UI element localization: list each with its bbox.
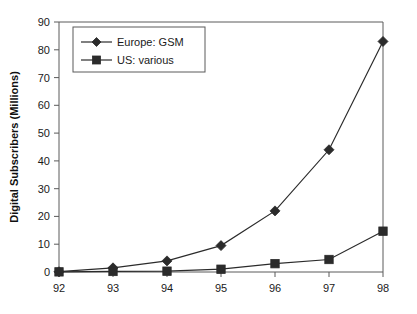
x-tick-label-93: 93	[107, 282, 119, 294]
x-tick-label-92: 92	[53, 282, 65, 294]
square-marker-icon	[55, 268, 63, 276]
y-tick-label-30: 30	[38, 183, 50, 195]
legend-item-us-various[interactable]: US: various	[81, 54, 174, 66]
legend-item-europe-gsm[interactable]: Europe: GSM	[81, 36, 184, 48]
square-marker-icon	[325, 255, 333, 263]
chart-container: 90 80 70 60 50 40 30 20 10 0 Digital Sub…	[0, 0, 417, 314]
square-marker-icon	[163, 267, 171, 275]
x-tick-label-98: 98	[377, 282, 389, 294]
square-marker-icon	[93, 56, 101, 64]
x-tick-label-96: 96	[269, 282, 281, 294]
diamond-marker-icon	[378, 36, 388, 46]
y-tick-label-20: 20	[38, 210, 50, 222]
x-tick-label-95: 95	[215, 282, 227, 294]
y-axis-title: Digital Subscribers (Millions)	[8, 71, 20, 223]
y-tick-label-0: 0	[44, 266, 50, 278]
x-axis: 92 93 94 95 96 97 98	[53, 272, 389, 294]
y-tick-group	[54, 22, 59, 272]
legend-label-us: US: various	[117, 54, 174, 66]
y-tick-label-80: 80	[38, 44, 50, 56]
square-marker-icon	[109, 267, 117, 275]
y-tick-label-10: 10	[38, 238, 50, 250]
line-chart: 90 80 70 60 50 40 30 20 10 0 Digital Sub…	[0, 0, 417, 314]
y-axis: 90 80 70 60 50 40 30 20 10 0 Digital Sub…	[8, 16, 59, 278]
x-tick-label-94: 94	[161, 282, 173, 294]
legend: Europe: GSM US: various	[73, 27, 205, 72]
legend-label-europe: Europe: GSM	[117, 36, 184, 48]
square-marker-icon	[271, 259, 279, 267]
diamond-marker-icon	[162, 256, 172, 266]
y-tick-label-40: 40	[38, 155, 50, 167]
y-tick-label-90: 90	[38, 16, 50, 28]
y-tick-label-70: 70	[38, 72, 50, 84]
y-tick-label-60: 60	[38, 99, 50, 111]
x-tick-label-97: 97	[323, 282, 335, 294]
square-marker-icon	[379, 227, 387, 235]
square-marker-icon	[217, 265, 225, 273]
diamond-marker-icon	[216, 241, 226, 251]
series-line	[59, 41, 383, 271]
y-tick-label-50: 50	[38, 127, 50, 139]
